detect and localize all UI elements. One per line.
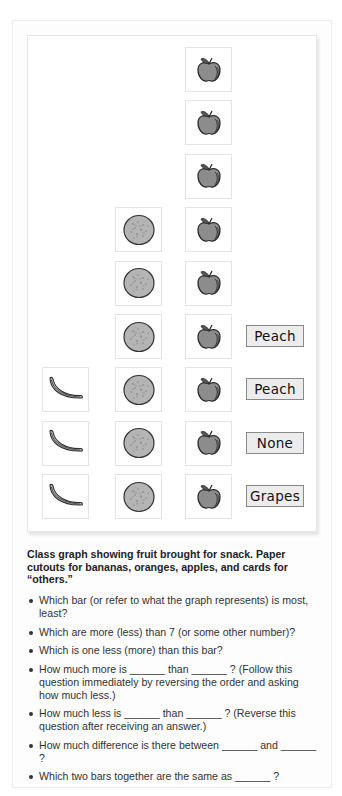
apple-icon — [194, 161, 224, 191]
orange-icon — [122, 426, 156, 460]
others-card: Grapes — [246, 485, 304, 507]
banana-icon — [47, 375, 85, 405]
banana-icon — [47, 428, 85, 458]
others-card: Peach — [246, 378, 304, 400]
question-item: How much difference is there between ___… — [27, 739, 317, 765]
banana-icon — [47, 482, 85, 512]
apple-icon — [194, 108, 224, 138]
orange-tile — [115, 474, 162, 519]
apple-icon — [194, 375, 224, 405]
orange-tile — [115, 421, 162, 466]
banana-tile — [42, 367, 89, 412]
orange-icon — [122, 266, 156, 300]
apple-icon — [194, 215, 224, 245]
question-item: Which bar (or refer to what the graph re… — [27, 594, 317, 620]
apple-tile — [185, 47, 232, 92]
orange-icon — [122, 320, 156, 354]
question-item: Which is one less (more) than this bar? — [27, 644, 317, 657]
question-item: Which two bars together are the same as … — [27, 770, 317, 783]
apple-icon — [194, 428, 224, 458]
apple-tile — [185, 154, 232, 199]
apple-tile — [185, 367, 232, 412]
banana-tile — [42, 474, 89, 519]
others-card: Peach — [246, 325, 304, 347]
orange-tile — [115, 261, 162, 306]
apple-tile — [185, 314, 232, 359]
orange-tile — [115, 314, 162, 359]
question-item: How much more is ______ than ______ ? (F… — [27, 663, 317, 702]
apple-tile — [185, 207, 232, 252]
others-card: None — [246, 432, 304, 454]
orange-icon — [122, 373, 156, 407]
question-list: Which bar (or refer to what the graph re… — [27, 594, 317, 789]
orange-icon — [122, 213, 156, 247]
apple-icon — [194, 55, 224, 85]
apple-tile — [185, 421, 232, 466]
orange-tile — [115, 367, 162, 412]
orange-tile — [115, 207, 162, 252]
apple-tile — [185, 261, 232, 306]
pictograph-board: PeachPeachNoneGrapes — [27, 35, 317, 532]
question-item: Which are more (less) than 7 (or some ot… — [27, 626, 317, 639]
apple-icon — [194, 322, 224, 352]
apple-icon — [194, 268, 224, 298]
apple-tile — [185, 474, 232, 519]
orange-icon — [122, 480, 156, 514]
figure-caption: Class graph showing fruit brought for sn… — [27, 548, 317, 586]
apple-icon — [194, 482, 224, 512]
banana-tile — [42, 421, 89, 466]
apple-tile — [185, 100, 232, 145]
question-item: How much less is ______ than ______ ? (R… — [27, 707, 317, 733]
